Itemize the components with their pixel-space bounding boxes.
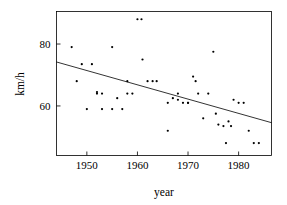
x-axis-tick-labels: 1950196019701980 (76, 159, 250, 171)
x-tick-label: 1950 (76, 159, 99, 171)
data-point (91, 63, 93, 65)
data-point (230, 125, 232, 127)
y-tick-label: 60 (40, 100, 52, 112)
y-axis-ticks (57, 44, 61, 106)
data-point (152, 80, 154, 82)
x-tick-label: 1970 (177, 159, 200, 171)
data-point (101, 108, 103, 110)
data-point (258, 142, 260, 144)
data-point (172, 97, 174, 99)
data-point (71, 46, 73, 48)
data-point (243, 102, 245, 104)
data-point (248, 130, 250, 132)
data-point (116, 97, 118, 99)
data-point (225, 142, 227, 144)
data-point-group (71, 18, 260, 144)
data-point (141, 58, 143, 60)
x-axis-title: year (154, 186, 174, 199)
x-axis-ticks (87, 152, 239, 156)
data-point (81, 63, 83, 65)
data-point (197, 92, 199, 94)
data-point (111, 46, 113, 48)
data-point (131, 92, 133, 94)
data-point (238, 102, 240, 104)
data-point (217, 123, 219, 125)
data-point (146, 80, 148, 82)
data-point (187, 102, 189, 104)
data-point (86, 108, 88, 110)
data-point (101, 92, 103, 94)
data-point (126, 92, 128, 94)
scatter-plot-figure: 1950196019701980 6080 year km/h (0, 0, 287, 205)
data-point (111, 108, 113, 110)
data-point (136, 18, 138, 20)
data-point (212, 51, 214, 53)
data-point (182, 102, 184, 104)
y-axis-title: km/h (14, 72, 26, 96)
data-point (167, 130, 169, 132)
data-point (156, 80, 158, 82)
data-point (202, 117, 204, 119)
data-point (195, 80, 197, 82)
data-point (232, 99, 234, 101)
data-point (222, 125, 224, 127)
data-point (227, 120, 229, 122)
plot-canvas: 1950196019701980 6080 year km/h (0, 0, 287, 205)
plot-frame (57, 12, 272, 156)
y-axis-tick-labels: 6080 (40, 38, 52, 112)
y-tick-label: 80 (40, 38, 52, 50)
data-point (76, 80, 78, 82)
data-point (126, 80, 128, 82)
regression-trend-line (57, 62, 272, 123)
data-point (192, 75, 194, 77)
data-point (253, 142, 255, 144)
data-point (140, 18, 142, 20)
data-point (207, 92, 209, 94)
data-point (215, 113, 217, 115)
data-point (177, 99, 179, 101)
data-point (96, 91, 98, 93)
x-tick-label: 1960 (126, 159, 149, 171)
x-tick-label: 1980 (228, 159, 251, 171)
data-point (121, 108, 123, 110)
data-point (167, 102, 169, 104)
data-point (177, 92, 179, 94)
